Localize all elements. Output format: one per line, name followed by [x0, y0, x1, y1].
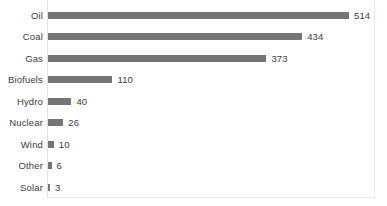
bar-container: 373	[48, 47, 387, 69]
bar	[48, 141, 54, 148]
bar-container: 434	[48, 26, 387, 48]
value-label: 26	[68, 117, 79, 128]
bar-row: Hydro40	[0, 90, 387, 112]
bar	[48, 184, 50, 191]
value-label: 373	[271, 53, 287, 64]
value-label: 10	[59, 139, 70, 150]
category-label: Wind	[0, 139, 43, 150]
value-label: 6	[57, 160, 62, 171]
value-label: 434	[307, 31, 323, 42]
bar-container: 3	[48, 176, 387, 198]
bar-row: Gas373	[0, 47, 387, 69]
value-label: 110	[117, 74, 133, 85]
value-label: 40	[76, 96, 87, 107]
bar	[48, 98, 71, 105]
bar	[48, 76, 112, 83]
bar-chart: Oil514Coal434Gas373Biofuels110Hydro40Nuc…	[0, 0, 387, 206]
bar	[48, 12, 349, 19]
bar-row: Oil514	[0, 4, 387, 26]
category-label: Coal	[0, 31, 43, 42]
bar-container: 110	[48, 69, 387, 91]
bar-container: 6	[48, 155, 387, 177]
bar-container: 26	[48, 112, 387, 134]
category-label: Other	[0, 160, 43, 171]
bar-row: Solar3	[0, 176, 387, 198]
bar	[48, 162, 52, 169]
bar	[48, 55, 266, 62]
bar-row: Wind10	[0, 133, 387, 155]
value-label: 3	[55, 182, 60, 193]
bar-container: 514	[48, 4, 387, 26]
category-label: Hydro	[0, 96, 43, 107]
bar-rows: Oil514Coal434Gas373Biofuels110Hydro40Nuc…	[0, 0, 387, 198]
bar-row: Coal434	[0, 26, 387, 48]
bar-row: Other6	[0, 155, 387, 177]
bar-row: Biofuels110	[0, 69, 387, 91]
bar-container: 40	[48, 90, 387, 112]
category-label: Oil	[0, 10, 43, 21]
category-label: Biofuels	[0, 74, 43, 85]
category-label: Solar	[0, 182, 43, 193]
bar	[48, 33, 302, 40]
category-label: Nuclear	[0, 117, 43, 128]
value-label: 514	[354, 10, 370, 21]
bar-container: 10	[48, 133, 387, 155]
bar	[48, 119, 63, 126]
bar-row: Nuclear26	[0, 112, 387, 134]
category-label: Gas	[0, 53, 43, 64]
